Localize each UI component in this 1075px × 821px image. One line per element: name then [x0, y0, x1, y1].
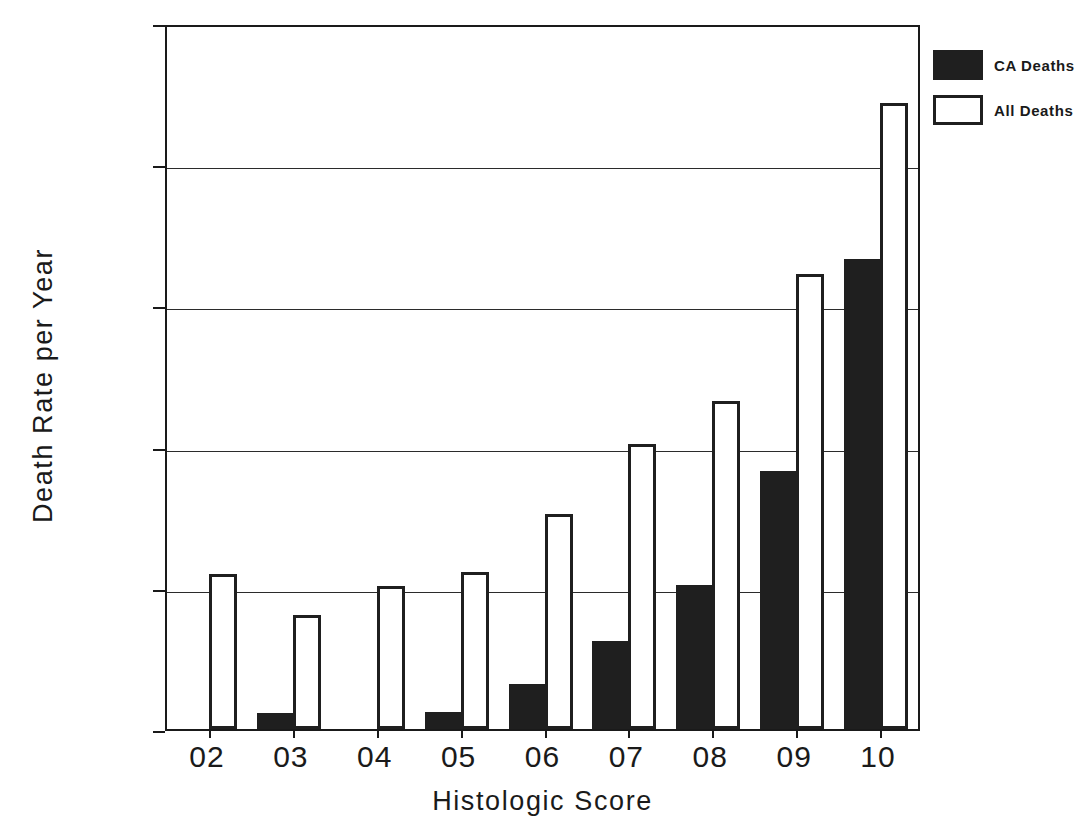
bar-all-deaths — [796, 274, 824, 729]
bar-ca-deaths — [676, 585, 712, 729]
bar-all-deaths — [461, 572, 489, 729]
y-axis-tick — [153, 590, 165, 592]
bar-ca-deaths — [592, 641, 628, 729]
x-axis-tick-label: 05 — [414, 742, 504, 772]
y-axis-tick — [153, 307, 165, 309]
x-axis-title: Histologic Score — [165, 786, 920, 817]
x-axis-tick — [293, 729, 295, 738]
bar-all-deaths — [712, 401, 740, 729]
bar-ca-deaths — [760, 471, 796, 729]
gridline — [167, 168, 918, 169]
bar-all-deaths — [545, 514, 573, 729]
bar-ca-deaths — [425, 712, 461, 729]
x-axis-tick — [712, 729, 714, 738]
plot-area — [165, 25, 920, 731]
legend-swatch-all-deaths — [933, 95, 983, 125]
bar-ca-deaths — [257, 713, 293, 729]
y-axis-title: Death Rate per Year — [28, 176, 59, 596]
bar-ca-deaths — [509, 684, 545, 729]
bar-all-deaths — [628, 444, 656, 729]
bar-all-deaths — [377, 586, 405, 729]
x-axis-tick-label: 04 — [330, 742, 420, 772]
x-axis-tick-label: 07 — [581, 742, 671, 772]
bar-all-deaths — [880, 103, 908, 729]
legend-entry-ca-deaths: CA Deaths — [933, 48, 1075, 82]
x-axis-tick-label: 02 — [162, 742, 252, 772]
y-axis-tick — [153, 449, 165, 451]
x-axis-tick-label: 09 — [749, 742, 839, 772]
x-axis-tick-label: 06 — [498, 742, 588, 772]
bar-ca-deaths — [844, 259, 880, 729]
x-axis-tick — [545, 729, 547, 738]
x-axis-tick — [209, 729, 211, 738]
y-axis-tick — [153, 731, 165, 733]
x-axis-tick — [628, 729, 630, 738]
x-axis-tick — [377, 729, 379, 738]
x-axis-tick-label: 03 — [246, 742, 336, 772]
y-axis-tick — [153, 25, 165, 27]
x-axis-tick — [796, 729, 798, 738]
legend-swatch-ca-deaths — [933, 50, 983, 80]
bar-all-deaths — [293, 615, 321, 729]
x-axis-tick-label: 08 — [665, 742, 755, 772]
x-axis-tick-label: 10 — [833, 742, 923, 772]
bar-all-deaths — [209, 574, 237, 729]
x-axis-tick — [461, 729, 463, 738]
y-axis-tick — [153, 166, 165, 168]
legend-label-all-deaths: All Deaths — [994, 102, 1073, 119]
legend-label-ca-deaths: CA Deaths — [994, 57, 1075, 74]
legend-entry-all-deaths: All Deaths — [933, 93, 1073, 127]
x-axis-tick — [880, 729, 882, 738]
